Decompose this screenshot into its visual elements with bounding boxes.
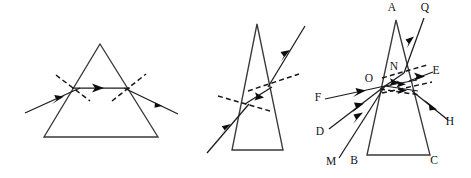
panel-3-emergent-ray-H-arrowhead (424, 100, 437, 111)
panel-2-normal-first-surface (218, 96, 270, 111)
panel-1-emergent-ray (124, 88, 178, 114)
panel-3-ray-D-arrowhead (352, 103, 364, 113)
panel-2-incident-ray (207, 104, 249, 153)
label-H: H (446, 115, 454, 127)
panel-2-emergent-arrowhead (281, 50, 291, 62)
panel-2-normal-second-surface (248, 74, 299, 91)
panel-2-incident-arrowhead (220, 124, 231, 135)
label-M: M (326, 155, 336, 167)
panel-3-emergent-ray-E-arrowhead (414, 73, 425, 81)
label-O: O (365, 72, 373, 84)
panel-1-incident-ray (25, 88, 80, 113)
panel-3-emergent-ray-Q-arrowhead (406, 37, 415, 49)
label-E: E (432, 64, 439, 76)
prism-1-outline (44, 44, 158, 137)
panel-3-emergent-ray-Q (404, 18, 424, 73)
label-D: D (316, 125, 324, 137)
figure-canvas: A Q N E O F H D M B C (0, 0, 471, 178)
label-F: F (315, 91, 321, 103)
label-C: C (430, 154, 438, 166)
panel-3-group (325, 18, 448, 158)
panel-2-group (207, 24, 305, 153)
panel-2-emergent-ray (268, 26, 305, 87)
physics-figure: A Q N E O F H D M B C (0, 0, 471, 178)
label-A: A (388, 1, 397, 13)
prism-2-outline (232, 24, 283, 150)
label-B: B (350, 154, 358, 166)
panel-1-group (25, 44, 178, 137)
label-N: N (390, 60, 399, 72)
labels-group: A Q N E O F H D M B C (315, 1, 454, 167)
panel-3-ray-M-incident (339, 86, 385, 158)
label-Q: Q (421, 1, 430, 13)
